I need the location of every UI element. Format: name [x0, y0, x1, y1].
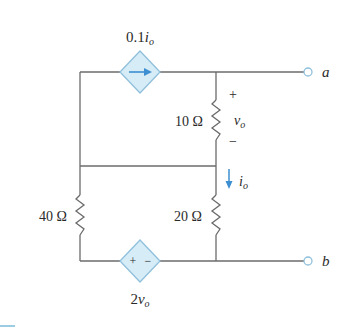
terminal-a-label: a: [322, 64, 330, 80]
resistor-40-ohm: [76, 195, 84, 235]
current-source-label: 0.1io: [126, 29, 154, 47]
r40-label: 40 Ω: [39, 209, 67, 224]
circuit-diagram: + − 0.1io 10 Ω 20 Ω 40 Ω + vo − io a b 2…: [0, 0, 355, 332]
wires: [80, 72, 304, 261]
current-io-arrow: [226, 169, 233, 189]
io-label: io: [239, 174, 248, 191]
arrow-down-icon: [226, 181, 233, 189]
terminal-a: [304, 68, 312, 76]
resistor-20-ohm: [212, 195, 220, 235]
vo-label: vo: [234, 113, 245, 130]
terminal-b: [304, 257, 312, 265]
minus-sign: −: [145, 254, 152, 268]
terminal-b-label: b: [322, 253, 330, 269]
r20-label: 20 Ω: [174, 209, 202, 224]
vo-minus: −: [229, 134, 237, 149]
r10-label: 10 Ω: [175, 114, 203, 129]
vo-plus: +: [229, 87, 237, 102]
resistor-10-ohm: [212, 100, 220, 140]
dependent-voltage-source: + −: [120, 240, 160, 282]
dependent-current-source: [120, 51, 160, 93]
plus-sign: +: [130, 254, 137, 268]
voltage-source-label: 2vo: [130, 291, 149, 309]
